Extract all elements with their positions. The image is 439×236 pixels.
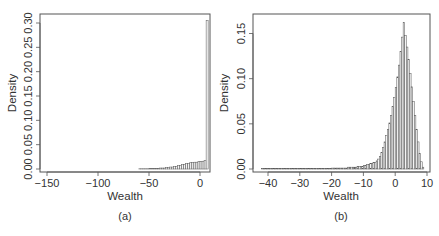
histogram-bar — [165, 168, 167, 169]
x-tick-label: −150 — [35, 177, 60, 189]
y-tick-label: 0.10 — [22, 110, 34, 131]
y-tick-label: 0.20 — [22, 61, 34, 82]
histogram-bar — [182, 165, 184, 169]
x-tick-label: 0 — [392, 177, 398, 189]
histogram-bar — [188, 164, 190, 169]
panel-label-b: (b) — [334, 210, 347, 222]
histogram-bar — [159, 168, 161, 169]
plot-frame-a — [40, 14, 210, 172]
histogram-bar — [200, 162, 202, 169]
histogram-bar — [206, 21, 208, 169]
histogram-bar — [422, 167, 424, 169]
y-tick-label: 0.25 — [22, 37, 34, 58]
histogram-bar — [204, 161, 206, 169]
histogram-bar — [184, 165, 186, 169]
x-tick-label: −50 — [140, 177, 159, 189]
x-axis-label-a: Wealth — [107, 190, 143, 202]
histogram-bar — [161, 168, 163, 169]
figure: 0.000.050.100.150.200.250.30 −150−100−50… — [0, 0, 439, 236]
panel-label-a: (a) — [118, 210, 131, 222]
histogram-bar — [194, 162, 196, 169]
x-axis-a: −150−100−500 — [35, 172, 203, 189]
histogram-panel-b: 0.000.050.100.15 −40−30−20−10010 Wealth … — [218, 14, 433, 222]
x-tick-label: 10 — [421, 177, 433, 189]
y-axis-b: 0.000.050.100.15 — [235, 23, 253, 180]
y-axis-label-a: Density — [6, 74, 18, 113]
histogram-bar — [192, 163, 194, 169]
histogram-bar — [167, 168, 169, 169]
histogram-bar — [171, 167, 173, 169]
y-axis-a: 0.000.050.100.150.200.250.30 — [22, 12, 40, 179]
histogram-bar — [169, 167, 171, 169]
histogram-bar — [198, 162, 200, 169]
histogram-bar — [202, 161, 204, 169]
y-tick-label: 0.05 — [235, 113, 247, 134]
y-tick-label: 0.05 — [22, 134, 34, 155]
y-tick-label: 0.15 — [235, 23, 247, 44]
histogram-bar — [176, 167, 178, 169]
histogram-bar — [163, 168, 165, 169]
x-tick-label: −100 — [86, 177, 111, 189]
x-tick-label: −20 — [322, 177, 341, 189]
histogram-bar — [180, 166, 182, 169]
histogram-bar — [190, 163, 192, 169]
histogram-panel-a: 0.000.050.100.150.200.250.30 −150−100−50… — [6, 12, 210, 222]
x-axis-b: −40−30−20−10010 — [259, 172, 433, 189]
x-tick-label: −30 — [290, 177, 309, 189]
x-axis-label-b: Wealth — [323, 190, 359, 202]
x-tick-label: 0 — [197, 177, 203, 189]
y-tick-label: 0.00 — [22, 158, 34, 179]
y-tick-label: 0.00 — [235, 158, 247, 179]
bars-b — [262, 23, 424, 169]
histogram-bar — [186, 164, 188, 169]
x-tick-label: −10 — [354, 177, 373, 189]
x-tick-label: −40 — [259, 177, 278, 189]
y-axis-label-b: Density — [218, 74, 230, 113]
histogram-bar — [196, 162, 198, 169]
bars-a — [139, 21, 208, 169]
y-tick-label: 0.30 — [22, 12, 34, 33]
y-tick-label: 0.15 — [22, 85, 34, 106]
histogram-bar — [173, 167, 175, 169]
y-tick-label: 0.10 — [235, 68, 247, 89]
histogram-bar — [178, 166, 180, 169]
